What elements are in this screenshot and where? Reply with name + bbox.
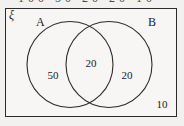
set-label-b: B [148, 16, 156, 28]
region-value-a-only: 50 [42, 70, 64, 81]
region-value-outside: 10 [152, 99, 172, 110]
region-value-intersection: 20 [80, 58, 102, 69]
set-label-a: A [36, 16, 45, 28]
region-value-b-only: 20 [116, 70, 138, 81]
scan-bottom-edge [0, 121, 184, 126]
circle-set-b [66, 22, 152, 108]
venn-diagram-screenshot: 100 50 20 20 10 ξ A B 50 20 20 10 [0, 0, 184, 126]
